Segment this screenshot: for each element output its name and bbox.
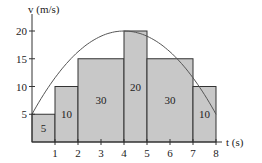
rectangles-group: [32, 31, 216, 142]
y-tick-label: 5: [22, 108, 28, 120]
y-axis-title: v (m/s): [28, 3, 60, 16]
x-tick-label: 7: [190, 147, 196, 159]
area-label: 30: [165, 94, 177, 106]
x-tick-label: 6: [167, 147, 173, 159]
x-tick-label: 5: [144, 147, 150, 159]
y-tick-label: 20: [16, 25, 28, 37]
x-axis-title: t (s): [226, 136, 244, 149]
y-tick-label: 15: [16, 53, 28, 65]
area-label: 20: [130, 81, 142, 93]
x-tick-label: 1: [52, 147, 58, 159]
velocity-time-chart: 123456785101520 51030203010 v (m/s) t (s…: [0, 0, 262, 163]
x-tick-label: 8: [213, 147, 219, 159]
area-label: 5: [41, 122, 47, 134]
x-tick-label: 2: [75, 147, 81, 159]
area-label: 10: [61, 108, 73, 120]
y-tick-label: 10: [16, 81, 28, 93]
x-tick-label: 4: [121, 147, 127, 159]
x-tick-label: 3: [98, 147, 104, 159]
area-label: 30: [96, 94, 108, 106]
area-label: 10: [199, 108, 211, 120]
